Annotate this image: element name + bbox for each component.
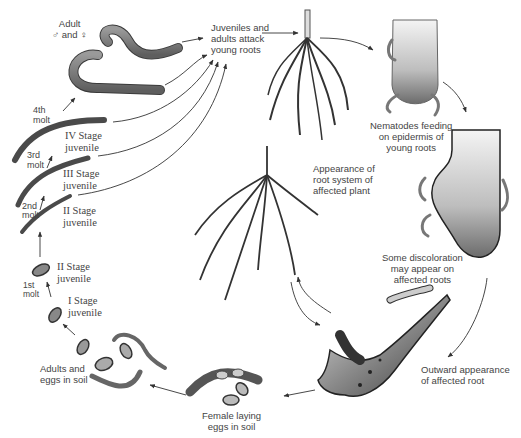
label-molt-4: 4th molt: [33, 105, 50, 125]
label-stage-3: III Stage juvenile: [63, 168, 99, 192]
label-nematodes-feeding: Nematodes feeding on epidermis of young …: [370, 120, 452, 153]
label-juveniles-attack: Juveniles and adults attack young roots: [211, 22, 269, 55]
adults-and-eggs-in-soil-icon: [75, 335, 165, 386]
label-female-laying: Female laying eggs in soil: [202, 410, 261, 432]
affected-root-system-icon: [195, 146, 318, 300]
adult-worms-icon: [73, 29, 178, 90]
label-molt-3: 3rd molt: [27, 150, 44, 170]
label-molt-1: 1st molt: [23, 281, 39, 299]
nematode-life-cycle-diagram: Adult ♂ and ♀ Juveniles and adults attac…: [0, 0, 521, 438]
label-outward-appearance: Outward appearance of affected root: [421, 364, 510, 386]
healthy-root-system-icon: [268, 10, 348, 140]
label-appearance-root-system: Appearance of root system of affected pl…: [313, 163, 375, 196]
root-tip-with-nematodes-icon: [387, 20, 438, 115]
label-stage-2: II Stage juvenile: [63, 205, 97, 229]
label-stage-1: I Stage juvenile: [68, 295, 102, 319]
label-molt-2: 2nd molt: [22, 202, 39, 220]
label-adults-eggs: Adults and eggs in soil: [40, 363, 88, 385]
label-discoloration: Some discoloration may appear on affecte…: [382, 252, 463, 285]
female-laying-eggs-icon: [190, 369, 258, 405]
label-stage-4: IV Stage juvenile: [65, 130, 102, 154]
label-stage-2-egg: II Stage juvenile: [57, 261, 91, 285]
label-adult: Adult ♂ and ♀: [52, 18, 87, 40]
